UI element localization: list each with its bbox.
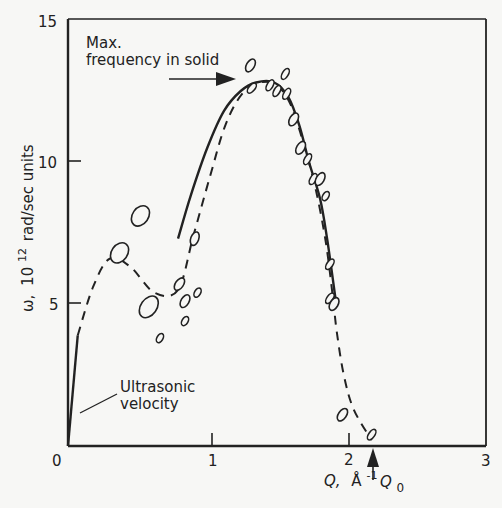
x-tick-label-1: 1 xyxy=(208,452,218,470)
q0-label: Q 0 xyxy=(380,473,404,495)
q0-label-main: Q xyxy=(380,473,392,491)
max-frequency-annotation: Max. frequency in solid xyxy=(86,34,236,86)
q0-arrow-icon xyxy=(367,448,379,467)
x-axis-label-unit: Å xyxy=(351,471,362,490)
x-axis-label: Q, Å -1 xyxy=(324,469,377,490)
max-frequency-arrow-icon xyxy=(216,72,236,86)
data-point-ellipse xyxy=(280,67,291,80)
max-frequency-label-line2: frequency in solid xyxy=(86,51,219,69)
svg-text:ω, 10 12 rad: ω, 10 12 rad/sec units xyxy=(12,144,37,312)
x-axis-label-q: Q, xyxy=(324,472,341,490)
y-axis-label: ω, 10 12 rad/sec units xyxy=(12,144,37,312)
data-point-ellipse xyxy=(155,332,165,344)
data-point-ellipse xyxy=(244,57,258,73)
q0-label-sub: 0 xyxy=(397,481,405,495)
x-tick-label-2: 2 xyxy=(344,451,354,469)
data-point-ellipse xyxy=(246,82,258,95)
x-axis-label-exponent: -1 xyxy=(366,469,377,482)
ultrasonic-label-line2: velocity xyxy=(120,395,179,413)
data-point-ellipse xyxy=(302,152,313,165)
dispersion-chart: 15 10 5 0 1 2 3 ω, 10 12 rad/sec units Q… xyxy=(0,0,502,508)
solid-curve xyxy=(178,81,335,298)
x-tick-label-0: 0 xyxy=(52,452,62,470)
ultrasonic-annotation: Ultrasonic velocity xyxy=(80,378,195,413)
ultrasonic-pointer-line xyxy=(80,394,117,413)
data-point-ellipse xyxy=(107,239,133,266)
data-point-ellipse xyxy=(180,315,190,327)
y-axis-label-exponent: 12 xyxy=(16,248,29,262)
y-axis-label-omega: ω, xyxy=(19,295,37,312)
ultrasonic-velocity-line xyxy=(68,335,78,446)
data-point-ellipse xyxy=(172,276,187,292)
data-point-ellipse xyxy=(192,287,202,299)
data-point-ellipse xyxy=(128,202,154,229)
y-axis-label-units: rad/sec units xyxy=(19,144,37,241)
data-point-ellipse xyxy=(335,407,350,423)
q0-annotation: Q 0 xyxy=(367,448,404,495)
y-tick-label-15: 15 xyxy=(38,13,57,31)
data-point-ellipse xyxy=(189,231,201,247)
data-point-ellipse xyxy=(366,428,378,441)
data-point-ellipse xyxy=(324,258,336,271)
y-tick-label-10: 10 xyxy=(38,154,57,172)
data-point-ellipse xyxy=(178,293,192,309)
data-point-ellipse xyxy=(135,292,162,321)
data-point-ellipse xyxy=(321,190,331,202)
y-axis-label-base: 10 xyxy=(19,267,37,286)
ultrasonic-label-line1: Ultrasonic xyxy=(120,378,195,396)
x-tick-label-3: 3 xyxy=(481,452,491,470)
max-frequency-label-line1: Max. xyxy=(86,34,122,52)
y-tick-label-5: 5 xyxy=(49,296,59,314)
